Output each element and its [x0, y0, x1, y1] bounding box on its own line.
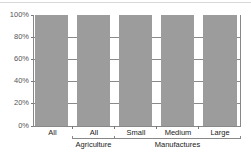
bar-manufactures-medium [161, 15, 194, 126]
right-axis-line [240, 15, 241, 127]
bar-manufactures-small [119, 15, 152, 126]
group-label-agriculture: Agriculture [72, 140, 115, 149]
y-tick-label-80: 80% [0, 33, 29, 41]
x-axis [33, 126, 241, 127]
x-tick [156, 126, 157, 129]
bar-all [35, 15, 68, 126]
y-tick-label-0: 0% [0, 122, 29, 130]
x-label-large: Large [200, 128, 240, 137]
bar-manufactures-large [203, 15, 237, 126]
stacked-bar-chart: 100% 80% 60% 40% 20% 0% All All Small Me… [0, 0, 251, 160]
group-bracket-end [240, 136, 241, 139]
x-label-agriculture-all: All [74, 128, 114, 137]
y-tick-label-60: 60% [0, 55, 29, 63]
y-tick-label-100: 100% [0, 11, 29, 19]
group-bracket-agriculture [72, 138, 115, 139]
y-axis [33, 15, 34, 127]
y-tick-label-40: 40% [0, 77, 29, 85]
x-label-medium: Medium [158, 128, 198, 137]
x-tick [72, 126, 73, 129]
x-tick [198, 126, 199, 129]
x-tick [114, 126, 115, 129]
x-label-all: All [33, 128, 72, 137]
x-label-small: Small [116, 128, 156, 137]
bar-agriculture-all [77, 15, 110, 126]
group-bracket-manufactures [114, 138, 241, 139]
group-label-manufactures: Manufactures [114, 140, 241, 149]
group-bracket-end [72, 136, 73, 139]
y-tick-label-20: 20% [0, 99, 29, 107]
